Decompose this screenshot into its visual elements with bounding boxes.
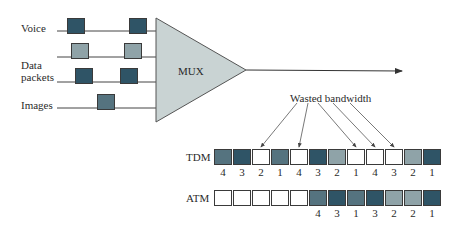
tdm-slot-number: 1: [271, 166, 289, 178]
atm-slot: [366, 190, 384, 206]
atm-slot: [271, 190, 289, 206]
tdm-slot: [290, 149, 308, 165]
images-label: Images: [21, 99, 53, 111]
tdm-slot-number: 1: [347, 166, 365, 178]
wasted-bandwidth-arrows: [261, 103, 394, 147]
wasted-arrow: [318, 103, 356, 147]
tdm-slot: [366, 149, 384, 165]
mux-label: MUX: [178, 65, 204, 77]
atm-slot-number: 2: [404, 207, 422, 219]
voice-label: Voice: [21, 22, 46, 34]
atm-slot: [404, 190, 422, 206]
tdm-slot-number: 2: [404, 166, 422, 178]
data-label-line2: packets: [21, 71, 54, 83]
tdm-slot-number: 4: [290, 166, 308, 178]
tdm-slot: [214, 149, 232, 165]
tdm-slot: [347, 149, 365, 165]
atm-slot-number: 1: [423, 207, 441, 219]
input-packet: [97, 94, 115, 110]
wasted-arrow: [350, 103, 394, 147]
atm-slot: [252, 190, 270, 206]
input-packet: [71, 43, 89, 59]
output-arrow: [246, 70, 402, 71]
tdm-slot: [404, 149, 422, 165]
atm-slot: [309, 190, 327, 206]
wasted-bandwidth-label: Wasted bandwidth: [290, 92, 371, 104]
tdm-slot: [233, 149, 251, 165]
tdm-slot-number: 3: [385, 166, 403, 178]
atm-slot-number: 3: [328, 207, 346, 219]
atm-slot: [233, 190, 251, 206]
tdm-slot: [252, 149, 270, 165]
data-label-line1: Data: [21, 59, 42, 71]
atm-slot: [214, 190, 232, 206]
tdm-slot: [328, 149, 346, 165]
atm-slot-number: 1: [347, 207, 365, 219]
atm-slot: [290, 190, 308, 206]
input-packet: [75, 68, 93, 84]
atm-slot: [347, 190, 365, 206]
tdm-slot-number: 2: [252, 166, 270, 178]
tdm-slot-number: 3: [309, 166, 327, 178]
atm-slot: [385, 190, 403, 206]
tdm-slot-number: 4: [214, 166, 232, 178]
atm-label: ATM: [186, 192, 209, 204]
wasted-arrow: [299, 103, 308, 147]
atm-slot: [328, 190, 346, 206]
tdm-slot: [309, 149, 327, 165]
atm-slot: [423, 190, 441, 206]
input-packet: [129, 18, 147, 34]
tdm-slot-number: 1: [423, 166, 441, 178]
wasted-arrow: [333, 103, 375, 147]
atm-slot-number: 3: [366, 207, 384, 219]
tdm-label: TDM: [186, 151, 210, 163]
tdm-slot-number: 3: [233, 166, 251, 178]
atm-slot-number: 4: [309, 207, 327, 219]
tdm-slot-number: 2: [328, 166, 346, 178]
input-packet: [67, 18, 85, 34]
atm-slot-number: 2: [385, 207, 403, 219]
input-packet: [120, 68, 138, 84]
tdm-slot-number: 4: [366, 166, 384, 178]
tdm-slot: [423, 149, 441, 165]
tdm-slot: [271, 149, 289, 165]
wasted-arrow: [261, 103, 297, 147]
input-packet: [124, 43, 142, 59]
tdm-slot: [385, 149, 403, 165]
